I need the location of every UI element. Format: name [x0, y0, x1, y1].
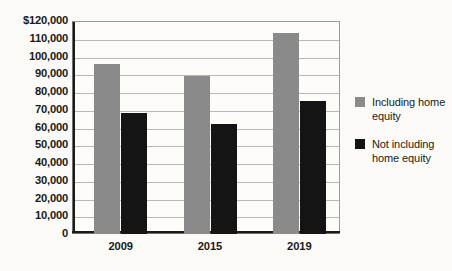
y-tick-label: 30,000: [0, 175, 68, 186]
y-tick-label: 110,000: [0, 33, 68, 44]
y-tick-label: 100,000: [0, 51, 68, 62]
legend-label: Including home equity: [372, 95, 451, 123]
y-tick-label: 50,000: [0, 140, 68, 151]
bar-group: [273, 21, 326, 234]
bar-group: [184, 21, 237, 234]
y-tick-label: 40,000: [0, 157, 68, 168]
legend: Including home equityNot including home …: [355, 95, 451, 179]
bar: [211, 124, 237, 234]
legend-label: Not including home equity: [372, 137, 451, 165]
y-tick-label: $120,000: [0, 15, 68, 26]
y-tick-label: 80,000: [0, 86, 68, 97]
legend-item[interactable]: Not including home equity: [355, 137, 451, 165]
bar: [121, 113, 147, 234]
bar: [300, 101, 326, 234]
bar: [94, 64, 120, 234]
y-tick-label: 0: [0, 228, 68, 239]
x-tick-label: 2015: [198, 240, 223, 252]
x-axis: 200920152019: [72, 240, 340, 260]
y-axis: $120,000110,000100,00090,00080,00070,000…: [0, 0, 68, 271]
bar-group: [94, 21, 147, 234]
legend-swatch-icon: [355, 97, 365, 107]
legend-swatch-icon: [355, 139, 365, 149]
x-tick-label: 2009: [108, 240, 133, 252]
bars-layer: [72, 21, 340, 234]
y-tick-label: 20,000: [0, 193, 68, 204]
bar-chart: $120,000110,000100,00090,00080,00070,000…: [0, 0, 452, 271]
bar: [273, 33, 299, 234]
y-tick-label: 70,000: [0, 104, 68, 115]
y-tick-label: 90,000: [0, 69, 68, 80]
bar: [184, 76, 210, 234]
x-tick-label: 2019: [287, 240, 312, 252]
y-tick-label: 60,000: [0, 122, 68, 133]
legend-item[interactable]: Including home equity: [355, 95, 451, 123]
y-tick-label: 10,000: [0, 211, 68, 222]
